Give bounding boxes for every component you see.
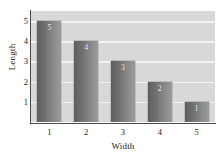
bar-value-label: 2 (148, 84, 172, 93)
y-tick-label: 4 (14, 36, 28, 46)
x-tick-label: 2 (68, 127, 105, 137)
y-tick-label: 5 (14, 16, 28, 26)
bar[interactable]: 5 (37, 21, 61, 122)
bar-slot: 2 (141, 11, 178, 122)
x-tick-label: 5 (178, 127, 215, 137)
plot-area: 5 4 3 2 1 (31, 11, 215, 122)
bar[interactable]: 4 (74, 41, 98, 122)
y-tick-label: 2 (14, 77, 28, 87)
x-tick-label: 3 (105, 127, 142, 137)
bar-chart-figure: Length 5 4 3 2 1 5 4 3 (0, 0, 219, 160)
x-axis-title: Width (31, 141, 215, 151)
bar-series: 5 4 3 2 1 (31, 11, 215, 122)
y-axis-tick-labels: 5 4 3 2 1 (14, 11, 28, 122)
bar-value-label: 3 (111, 63, 135, 72)
bar-slot: 3 (105, 11, 142, 122)
bar[interactable]: 1 (185, 102, 209, 122)
bar[interactable]: 2 (148, 82, 172, 122)
bar-slot: 4 (68, 11, 105, 122)
y-axis-line (30, 10, 31, 123)
x-tick-label: 4 (141, 127, 178, 137)
x-axis-tick-labels: 1 2 3 4 5 (31, 127, 215, 137)
bar-value-label: 1 (185, 104, 209, 113)
bar-slot: 5 (31, 11, 68, 122)
x-tick-label: 1 (31, 127, 68, 137)
bar-value-label: 5 (37, 23, 61, 32)
bar[interactable]: 3 (111, 61, 135, 122)
bar-slot: 1 (178, 11, 215, 122)
y-tick-label: 1 (14, 97, 28, 107)
bar-value-label: 4 (74, 43, 98, 52)
y-tick-label: 3 (14, 56, 28, 66)
x-axis-line (30, 123, 216, 124)
